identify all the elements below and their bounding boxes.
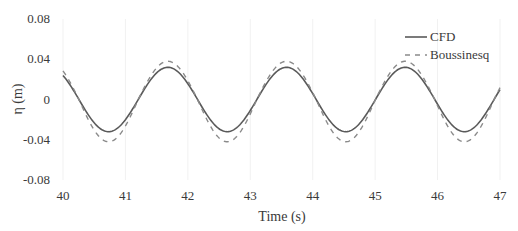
legend: CFD Boussinesq [405,29,490,62]
plot-series [63,61,500,142]
x-tick-label: 45 [369,188,382,203]
x-axis-ticks: 4041424344454647 [57,188,508,203]
y-tick-label: 0.08 [27,11,50,26]
x-tick-label: 41 [119,188,132,203]
x-tick-label: 46 [431,188,445,203]
x-tick-label: 47 [494,188,508,203]
y-tick-label: 0 [44,92,51,107]
y-tick-label: 0.04 [27,51,50,66]
x-tick-label: 42 [181,188,194,203]
x-axis-label: Time (s) [258,209,306,225]
x-tick-label: 40 [57,188,70,203]
legend-label-boussinesq: Boussinesq [430,47,490,62]
y-axis-ticks: 0.080.040-0.04-0.08 [23,11,51,187]
x-tick-label: 43 [244,188,257,203]
line-chart: 0.080.040-0.04-0.08 4041424344454647 η (… [0,0,518,231]
y-axis-label: η (m) [10,83,26,114]
y-tick-label: -0.08 [23,172,50,187]
y-tick-label: -0.04 [23,132,51,147]
series-boussinesq [63,61,500,142]
legend-label-cfd: CFD [430,29,455,44]
x-tick-label: 44 [306,188,320,203]
